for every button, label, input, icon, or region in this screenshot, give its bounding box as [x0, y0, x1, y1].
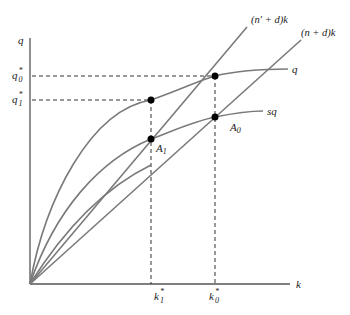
y-axis-label: q: [18, 34, 24, 46]
k0-star-label: k*0: [209, 287, 219, 305]
A1-point: [148, 136, 155, 143]
output-curve: [30, 69, 288, 284]
q0-point: [212, 73, 219, 80]
new-depreciation-line: [30, 27, 247, 284]
x-axis-label: k: [296, 278, 302, 290]
q1-star-label: q*1: [12, 90, 23, 108]
k1-star-label: k*1: [154, 287, 164, 305]
q1-point: [148, 97, 155, 104]
depreciation-label: (n + d)k: [301, 27, 336, 39]
q0-star-label: q*0: [12, 66, 23, 84]
savings-curve-label: sq: [267, 105, 277, 117]
solow-diagram: q k q sq (n′ + d)k (n + d)k A0 A1 q*0 q*…: [0, 0, 350, 315]
output-curve-label: q: [292, 63, 298, 75]
new-depreciation-label: (n′ + d)k: [251, 14, 288, 26]
depreciation-line: [30, 40, 301, 284]
A0-label: A0: [229, 121, 241, 135]
inner-curve: [30, 165, 151, 284]
A0-point: [212, 114, 219, 121]
A1-label: A1: [155, 142, 167, 156]
savings-curve: [30, 111, 263, 284]
